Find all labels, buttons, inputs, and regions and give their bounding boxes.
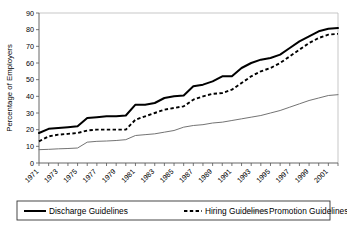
x-tick-label: 1999 [293, 167, 311, 185]
x-tick-label: 1987 [177, 167, 195, 185]
x-tick-label: 1983 [138, 167, 156, 185]
y-tick-label: 60 [26, 59, 34, 68]
y-tick-label: 80 [26, 25, 34, 34]
x-tick-label: 1971 [23, 167, 41, 185]
x-tick-label: 1991 [216, 167, 234, 185]
y-tick-label: 10 [26, 142, 34, 151]
y-tick-label: 30 [26, 109, 34, 118]
legend-label: Promotion Guidelines [269, 206, 347, 216]
y-tick-label: 0 [30, 159, 34, 168]
legend-label: Discharge Guidelines [49, 206, 128, 216]
data-series-group [39, 28, 338, 150]
x-tick-label: 1981 [119, 167, 137, 185]
series-line-discharge-guidelines [39, 28, 338, 133]
x-tick-label: 1997 [274, 167, 292, 185]
y-tick-label: 40 [26, 92, 34, 101]
y-tick-label: 70 [26, 42, 34, 51]
x-tick-label: 1977 [81, 167, 99, 185]
chart-canvas: 0102030405060708090 19711973197519771979… [0, 0, 347, 230]
x-tick-label: 1985 [158, 167, 176, 185]
y-tick-label: 20 [26, 125, 34, 134]
x-tick-label: 1989 [196, 167, 214, 185]
x-tick-label: 1975 [61, 167, 79, 185]
x-tick-label: 1973 [42, 167, 60, 185]
x-tick-label: 1993 [235, 167, 253, 185]
line-chart-figure: 0102030405060708090 19711973197519771979… [0, 0, 347, 230]
y-axis-title: Percentage of Employers [5, 44, 14, 132]
plot-frame [39, 13, 338, 163]
y-axis-ticks: 0102030405060708090 [26, 9, 39, 168]
legend: Discharge GuidelinesHiring GuidelinesPro… [17, 201, 347, 220]
x-tick-label: 2001 [312, 167, 330, 185]
series-line-hiring-guidelines [39, 34, 338, 142]
y-tick-label: 90 [26, 9, 34, 18]
x-tick-label: 1979 [100, 167, 118, 185]
x-axis-ticks: 1971197319751977197919811983198519871989… [23, 163, 338, 185]
x-tick-label: 1995 [254, 167, 272, 185]
y-tick-label: 50 [26, 75, 34, 84]
